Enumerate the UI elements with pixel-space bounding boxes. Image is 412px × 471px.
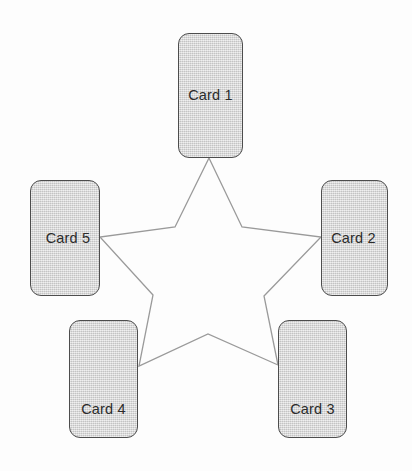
card-1[interactable]: Card 1 [178, 33, 243, 158]
card-3-label: Card 3 [290, 402, 335, 417]
card-2-label: Card 2 [331, 231, 376, 246]
diagram-canvas: Card 1 Card 2 Card 3 Card 4 Card 5 [0, 0, 412, 471]
card-5[interactable]: Card 5 [30, 180, 100, 296]
card-1-label: Card 1 [188, 88, 233, 103]
card-4[interactable]: Card 4 [69, 320, 138, 438]
card-5-label: Card 5 [46, 231, 91, 246]
card-3[interactable]: Card 3 [278, 320, 347, 438]
card-2[interactable]: Card 2 [321, 180, 388, 296]
card-4-label: Card 4 [81, 402, 126, 417]
